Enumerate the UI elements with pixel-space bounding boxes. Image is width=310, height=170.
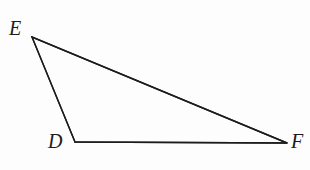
vertex-label-d: D xyxy=(48,131,62,151)
geometry-figure: E D F xyxy=(0,0,310,170)
triangle-shape xyxy=(0,0,310,170)
vertex-label-e: E xyxy=(9,18,21,38)
edge-DF xyxy=(75,142,287,143)
edge-FE xyxy=(32,37,287,143)
vertex-label-f: F xyxy=(291,131,303,151)
